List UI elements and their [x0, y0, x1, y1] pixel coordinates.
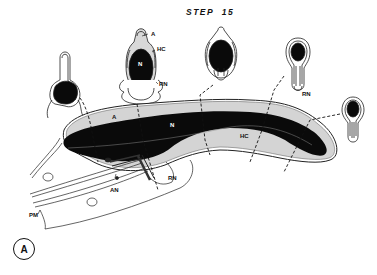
label-acrosome-main: A	[112, 114, 116, 120]
label-ring-nucleus-section4: RN	[302, 91, 311, 97]
label-plasma-membrane-main: PM	[29, 212, 38, 218]
panel-label-text: A	[20, 244, 27, 255]
label-nucleus-section2: N	[138, 61, 142, 67]
panel-label: A	[13, 238, 35, 260]
label-head-cap-main: HC	[240, 133, 249, 139]
label-ring-nucleus-section2: RN	[159, 81, 168, 87]
label-acrosome-section2: A	[151, 31, 155, 37]
label-head-cap-section2: HC	[157, 46, 166, 52]
longitudinal-section	[63, 99, 337, 170]
cross-section-1	[47, 52, 84, 118]
figure-title: STEP 15	[186, 7, 234, 17]
cross-section-4	[286, 38, 310, 91]
spermatid-diagram	[0, 0, 377, 275]
cross-section-5	[342, 97, 364, 142]
label-ring-nucleus-main: RN	[168, 175, 177, 181]
label-axial-nucleus-main: AN	[110, 187, 119, 193]
cross-section-3	[205, 27, 237, 80]
label-nucleus-main: N	[170, 122, 174, 128]
